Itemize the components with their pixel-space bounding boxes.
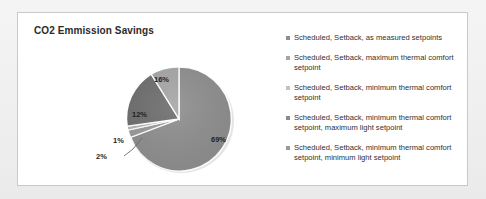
legend-marker-icon	[286, 36, 290, 40]
pie-label-1: 1%	[113, 136, 124, 145]
chart-legend: Scheduled, Setback, as measured setpoint…	[286, 33, 478, 173]
chart-panel: CO2 Emmission Savings	[17, 12, 468, 186]
pie-label-2: 2%	[96, 152, 107, 161]
legend-marker-icon	[286, 146, 290, 150]
pie-label-12: 12%	[132, 110, 147, 119]
chart-screenshot: CO2 Emmission Savings	[0, 0, 486, 199]
pie-chart: 69% 16% 12% 1% 2%	[96, 53, 256, 183]
legend-item-4[interactable]: Scheduled, Setback, minimum thermal comf…	[286, 143, 478, 164]
legend-item-label: Scheduled, Setback, minimum thermal comf…	[294, 83, 478, 104]
legend-item-label: Scheduled, Setback, maximum thermal comf…	[294, 53, 478, 74]
legend-item-2[interactable]: Scheduled, Setback, minimum thermal comf…	[286, 83, 478, 104]
pie-shading	[127, 67, 231, 171]
legend-marker-icon	[286, 116, 290, 120]
legend-item-label: Scheduled, Setback, minimum thermal comf…	[294, 113, 478, 134]
legend-item-3[interactable]: Scheduled, Setback, minimum thermal comf…	[286, 113, 478, 134]
legend-item-0[interactable]: Scheduled, Setback, as measured setpoint…	[286, 33, 478, 44]
chart-title: CO2 Emmission Savings	[34, 25, 154, 36]
pie-label-16: 16%	[154, 75, 169, 84]
legend-item-label: Scheduled, Setback, minimum thermal comf…	[294, 143, 478, 164]
legend-marker-icon	[286, 56, 290, 60]
pie-svg	[96, 53, 256, 183]
legend-item-label: Scheduled, Setback, as measured setpoint…	[294, 33, 442, 44]
legend-item-1[interactable]: Scheduled, Setback, maximum thermal comf…	[286, 53, 478, 74]
pie-label-69: 69%	[211, 135, 226, 144]
legend-marker-icon	[286, 86, 290, 90]
